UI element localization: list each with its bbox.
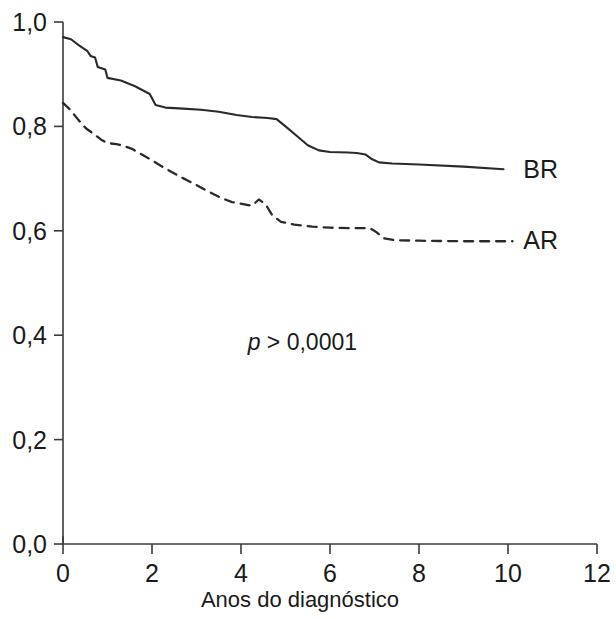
y-tick-label: 0,0 <box>12 530 47 558</box>
x-tick-label: 10 <box>494 559 522 587</box>
x-tick-label: 4 <box>234 559 248 587</box>
x-tick-label: 8 <box>412 559 426 587</box>
data-series <box>63 37 512 241</box>
survival-chart-figure: 0,00,20,40,60,81,0 024681012 BRAR p > 0,… <box>0 0 616 619</box>
axes <box>63 22 597 544</box>
x-tick-label: 12 <box>583 559 611 587</box>
y-tick-label: 0,4 <box>12 321 47 349</box>
y-tick-label: 0,6 <box>12 217 47 245</box>
annotation-p-value: p > 0,0001 <box>247 329 357 355</box>
y-axis-ticks: 0,00,20,40,60,81,0 <box>12 8 63 558</box>
series-label-br: BR <box>523 155 558 183</box>
x-axis-title: Anos do diagnóstico <box>201 587 399 612</box>
y-tick-label: 0,8 <box>12 112 47 140</box>
annotation-rest: > 0,0001 <box>260 329 357 355</box>
y-tick-label: 0,2 <box>12 426 47 454</box>
series-label-ar: AR <box>523 226 558 254</box>
series-curve-ar <box>63 103 512 241</box>
series-labels: BRAR <box>523 155 558 254</box>
x-tick-label: 6 <box>323 559 337 587</box>
annotations: p > 0,0001 <box>247 329 357 355</box>
chart-canvas: 0,00,20,40,60,81,0 024681012 BRAR p > 0,… <box>0 0 616 619</box>
annotation-italic-symbol: p <box>247 329 261 355</box>
x-tick-label: 0 <box>56 559 70 587</box>
y-tick-label: 1,0 <box>12 8 47 36</box>
series-curve-br <box>63 37 504 169</box>
x-tick-label: 2 <box>145 559 159 587</box>
